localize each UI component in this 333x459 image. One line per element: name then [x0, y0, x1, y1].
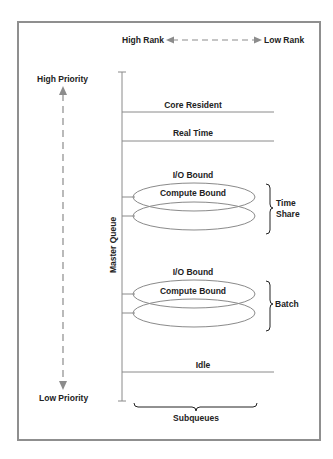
master-queue-line	[118, 72, 126, 401]
timeshare-label-line1: Time	[276, 198, 296, 208]
low-rank-label: Low Rank	[264, 35, 304, 45]
low-priority-label: Low Priority	[39, 393, 88, 403]
batch-label: Batch	[275, 299, 299, 309]
subqueues-brace-icon	[134, 403, 257, 411]
batch-brace-icon	[266, 281, 273, 331]
queue-diagram: High Rank Low Rank High Priority Low Pri…	[0, 0, 333, 459]
core-resident-label: Core Resident	[164, 100, 222, 110]
batch-io-bound-label: I/O Bound	[173, 267, 214, 277]
priority-arrow-icon	[59, 86, 67, 390]
timeshare-compute-bound-label: Compute Bound	[160, 188, 226, 198]
high-rank-label: High Rank	[122, 35, 164, 45]
timeshare-label-line2: Share	[276, 209, 300, 219]
idle-label: Idle	[196, 360, 211, 370]
master-queue-label: Master Queue	[108, 217, 118, 273]
rank-arrow-icon	[166, 37, 262, 44]
real-time-label: Real Time	[173, 128, 213, 138]
high-priority-label: High Priority	[37, 74, 88, 84]
timeshare-brace-icon	[266, 184, 273, 234]
batch-compute-bound-label: Compute Bound	[160, 286, 226, 296]
subqueues-label: Subqueues	[173, 413, 219, 423]
timeshare-io-bound-label: I/O Bound	[173, 170, 214, 180]
